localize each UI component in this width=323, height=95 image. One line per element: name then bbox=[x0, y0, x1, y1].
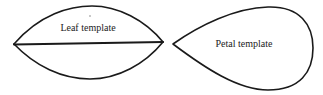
petal-template: Petal template bbox=[173, 7, 313, 90]
leaf-outline-bottom bbox=[14, 42, 163, 79]
leaf-midrib-line bbox=[14, 42, 163, 45]
petal-template-label: Petal template bbox=[216, 38, 273, 49]
leaf-template: Leaf template bbox=[14, 6, 163, 79]
leaf-template-label: Leaf template bbox=[60, 22, 116, 33]
templates-diagram: Leaf template Petal template bbox=[0, 0, 323, 95]
